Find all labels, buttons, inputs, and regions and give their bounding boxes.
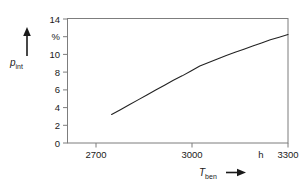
- x-tick-label-3000: 3000: [181, 149, 202, 160]
- x-tick-label-2700: 2700: [85, 149, 106, 160]
- y-tick-label-10: 10: [49, 49, 60, 60]
- y-tick-label-6: 6: [55, 84, 60, 95]
- y-tick-label-8: 8: [55, 67, 60, 78]
- x-tick-label-3300: 3300: [277, 149, 298, 160]
- y-tick-label-0: 0: [55, 138, 60, 149]
- plot-frame: [68, 19, 289, 144]
- x-axis-title: Tben: [199, 167, 217, 180]
- chart-container: 14 10 8 6 4 2 0 % pint 2700 3000 3300: [0, 0, 308, 188]
- x-axis-unit-label: h: [258, 149, 263, 160]
- y-axis-unit-label: %: [52, 31, 61, 42]
- x-axis-subscript: ben: [205, 173, 217, 180]
- y-axis-subscript: int: [16, 63, 23, 70]
- x-axis-arrow-icon: [226, 169, 246, 176]
- y-axis-ticks: [63, 19, 68, 143]
- y-tick-label-14: 14: [49, 14, 60, 25]
- y-axis-title: pint: [9, 57, 23, 70]
- x-axis-ticks: [96, 143, 288, 148]
- y-axis-arrow-icon: [23, 27, 31, 56]
- y-tick-label-4: 4: [55, 102, 60, 113]
- x-axis-tick-labels: 2700 3000 3300: [85, 149, 298, 160]
- y-tick-label-2: 2: [55, 120, 60, 131]
- plot-area-border: [68, 19, 289, 144]
- line-chart: 14 10 8 6 4 2 0 % pint 2700 3000 3300: [0, 0, 308, 188]
